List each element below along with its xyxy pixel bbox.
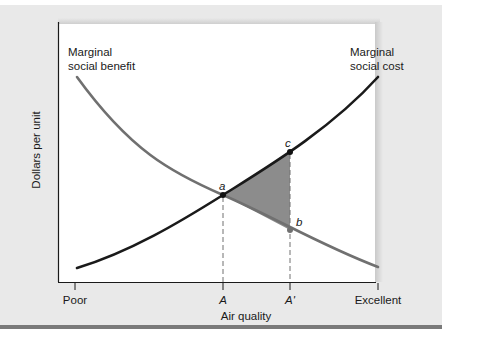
chart-svg: a c b Marginal social benefit Marginal s… (0, 0, 493, 358)
msc-label-line2: social cost (350, 60, 404, 72)
msc-label-line1: Marginal (350, 46, 394, 58)
point-label-b: b (296, 216, 303, 228)
x-tick-label-excellent: Excellent (355, 294, 402, 306)
point-a (220, 192, 226, 198)
point-b (287, 227, 293, 233)
msb-label-line2: social benefit (68, 60, 136, 72)
x-tick-label-A: A (218, 294, 227, 306)
point-c (287, 149, 293, 155)
x-axis-title: Air quality (221, 310, 272, 322)
x-tick-label-A-prime: A' (284, 294, 296, 306)
point-label-c: c (285, 137, 291, 149)
y-axis-title: Dollars per unit (30, 111, 42, 189)
plot-shadow-top (58, 18, 380, 24)
msb-label-line1: Marginal (68, 46, 112, 58)
point-label-a: a (219, 180, 225, 192)
x-tick-label-poor: Poor (63, 294, 87, 306)
